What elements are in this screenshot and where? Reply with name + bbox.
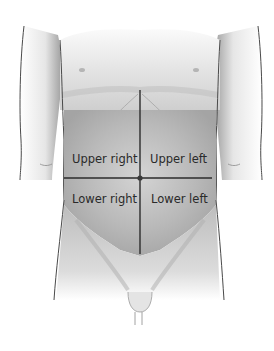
left-nipple xyxy=(193,68,199,72)
right-arm xyxy=(20,26,62,180)
label-lower-right: Lower right xyxy=(72,192,137,206)
label-upper-right: Upper right xyxy=(72,152,138,166)
label-upper-left: Upper left xyxy=(150,152,207,166)
left-arm xyxy=(214,26,262,180)
groin xyxy=(128,292,152,325)
torso-illustration xyxy=(0,0,274,351)
label-lower-left: Lower left xyxy=(151,192,208,206)
abdominal-quadrants-diagram: Upper right Upper left Lower right Lower… xyxy=(0,0,274,351)
right-nipple xyxy=(79,68,85,72)
navel xyxy=(137,175,142,180)
